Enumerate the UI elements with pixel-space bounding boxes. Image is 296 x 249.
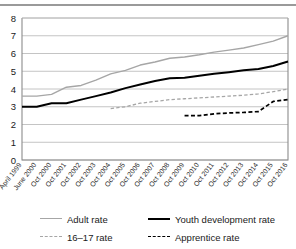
series-line-youth-development-rate (22, 61, 288, 106)
legend-item-16-17-rate: 16–17 rate (40, 232, 148, 243)
series-line-adult-rate (22, 36, 288, 96)
legend-item-youth-development-rate: Youth development rate (148, 214, 296, 225)
legend-label: Youth development rate (175, 214, 275, 225)
y-tick-label: 4 (11, 84, 16, 95)
series-line-16-17-rate (111, 89, 288, 109)
legend-item-apprentice-rate: Apprentice rate (148, 232, 296, 243)
legend-label: Apprentice rate (175, 232, 239, 243)
line-chart: 012345678 April 1999June 2000Oct 2000Oct… (0, 8, 296, 208)
y-tick-label: 2 (11, 119, 16, 130)
y-tick-label: 5 (11, 66, 16, 77)
legend-item-adult-rate: Adult rate (40, 214, 148, 225)
legend-label: 16–17 rate (67, 232, 112, 243)
y-tick-label: 8 (11, 13, 16, 24)
series-line-apprentice-rate (185, 100, 288, 116)
chart-canvas: 012345678 April 1999June 2000Oct 2000Oct… (0, 8, 296, 208)
series-layer (22, 36, 288, 116)
x-axis-tick-labels: April 1999June 2000Oct 2000Oct 2001Oct 2… (0, 161, 289, 191)
y-tick-label: 3 (11, 101, 16, 112)
y-tick-label: 7 (11, 30, 16, 41)
y-axis-tick-labels: 012345678 (11, 13, 16, 166)
top-rule (0, 4, 296, 6)
y-tick-label: 6 (11, 48, 16, 59)
legend-label: Adult rate (67, 214, 108, 225)
chart-legend: Adult rate Youth development rate 16–17 … (0, 206, 296, 249)
y-tick-label: 1 (11, 137, 16, 148)
